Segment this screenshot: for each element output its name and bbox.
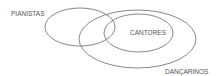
pianistas-set-ellipse <box>45 8 115 46</box>
pianistas-label: PIANISTAS <box>11 10 45 17</box>
dancarinos-label: DANÇARINOS <box>165 68 209 76</box>
cantores-label: CANTORES <box>130 29 167 36</box>
venn-diagram: PIANISTAS CANTORES DANÇARINOS <box>0 0 218 76</box>
dancarinos-set-ellipse <box>79 10 196 68</box>
